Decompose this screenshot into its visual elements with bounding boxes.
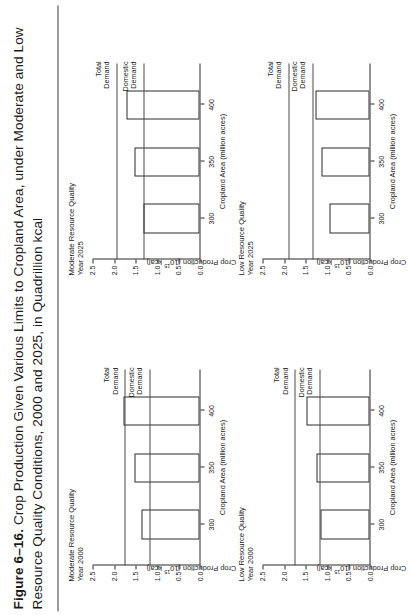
total-demand-label: TotalDemand [266,61,283,88]
x-axis-tick-label: 350 [377,148,384,174]
demand-label-line2: Demand [102,61,110,88]
y-axis-tick [92,565,93,569]
x-axis-tick [200,409,204,410]
chart-title: Moderate Resource QualityYear 2025 [66,183,85,275]
bar [123,396,199,426]
chart-title: Moderate Resource QualityYear 2000 [66,489,85,581]
x-axis-tick-label: 350 [207,454,214,480]
x-axis-tick-label: 400 [377,91,384,117]
x-axis-tick [370,466,374,467]
demand-label-line2: Demand [274,61,282,88]
x-axis-tick [200,217,204,218]
y-axis-tick [284,259,285,263]
x-axis-tick-label: 300 [207,205,214,231]
figure-number: Figure 6–16. [10,528,25,609]
total-demand-label: TotalDemand [272,367,289,394]
demand-label-line2: Demand [111,367,119,394]
total-demand-label: TotalDemand [102,367,119,394]
y-axis-tick-label: 2.5 [258,571,265,593]
x-axis-tick-label: 300 [207,511,214,537]
x-axis-title: Cropland Area (million acres) [387,63,396,259]
y-axis-tick [135,565,136,569]
domestic-demand-label: DomesticDemand [297,367,314,397]
chart-moderate-2025: Moderate Resource QualityYear 20250.00.5… [66,14,232,303]
y-axis-tick [284,565,285,569]
domestic-demand-label: DomesticDemand [121,61,138,91]
demand-label-line2: Demand [129,61,137,91]
x-axis-tick [370,103,374,104]
domestic-demand-line [149,369,150,565]
demand-label-line2: Demand [298,61,306,91]
figure-caption-line2: Resource Quality Conditions, 2000 and 20… [27,5,46,609]
bar [329,203,369,233]
chart-low-2000: Low Resource QualityYear 20000.00.51.01.… [236,320,402,609]
x-axis-tick [370,160,374,161]
x-axis-tick [200,160,204,161]
chart-title-line1: Moderate Resource Quality [66,183,75,275]
plot-area: 0.00.51.01.52.02.5300350400TotalDemandDo… [262,369,370,565]
y-axis-tick-label: 1.5 [301,265,308,287]
domestic-demand-line [312,63,313,259]
chart-title-line2: Year 2000 [245,507,254,581]
bar [316,453,369,483]
figure-caption: Figure 6–16. Crop Production Given Vario… [8,5,46,609]
y-axis-tick-label: 2.0 [280,571,287,593]
demand-label-line2: Demand [305,367,313,397]
y-axis-tick [114,565,115,569]
x-axis-tick-label: 400 [207,91,214,117]
chart-grid: Moderate Resource QualityYear 20000.00.5… [64,5,404,611]
x-axis-tick-label: 300 [377,511,384,537]
bar [306,396,369,426]
y-axis-tick [262,259,263,263]
x-axis-tick [200,103,204,104]
chart-low-2025: Low Resource QualityYear 20250.00.51.01.… [236,14,402,303]
y-axis-tick [262,565,263,569]
demand-label-line2: Demand [135,367,143,397]
plot-area: 0.00.51.01.52.02.5300350400TotalDemandDo… [92,63,200,259]
bar [315,90,369,120]
total-demand-line [288,63,289,259]
y-axis-tick [305,565,306,569]
bar [320,509,369,539]
demand-label-line2: Demand [281,367,289,394]
y-axis-tick-label: 2.5 [258,265,265,287]
figure-page: Figure 6–16. Crop Production Given Vario… [0,0,410,615]
bar [134,453,199,483]
plot-area: 0.00.51.01.52.02.5300350400TotalDemandDo… [92,369,200,565]
figure-caption-line1: Crop Production Given Various Limits to … [10,27,25,525]
chart-title-line2: Year 2025 [75,183,84,275]
domestic-demand-line [143,63,144,259]
chart-title-line1: Moderate Resource Quality [66,489,75,581]
total-demand-line [294,369,295,565]
y-axis-tick [114,259,115,263]
y-axis-tick-label: 2.0 [280,265,287,287]
x-axis-tick [370,523,374,524]
chart-title-line1: Low Resource Quality [236,201,245,275]
bar [321,147,369,177]
y-axis-tick-label: 1.5 [131,571,138,593]
x-axis-tick-label: 400 [207,397,214,423]
x-axis-tick-label: 400 [377,397,384,423]
domestic-demand-label: DomesticDemand [127,367,144,397]
x-axis-tick-label: 350 [207,148,214,174]
y-axis-tick-label: 1.5 [131,265,138,287]
x-axis-tick-label: 300 [377,205,384,231]
x-axis-tick [200,466,204,467]
y-axis-tick [135,259,136,263]
total-demand-label: TotalDemand [94,61,111,88]
domestic-demand-line [319,369,320,565]
chart-title-line2: Year 2000 [75,489,84,581]
y-axis-tick-label: 1.5 [301,571,308,593]
chart-moderate-2000: Moderate Resource QualityYear 20000.00.5… [66,320,232,609]
x-axis-title: Cropland Area (million acres) [217,369,226,565]
chart-title-line2: Year 2025 [245,201,254,275]
y-axis-tick-label: 2.5 [88,571,95,593]
total-demand-line [124,369,125,565]
bar [143,203,199,233]
chart-title: Low Resource QualityYear 2000 [236,507,255,581]
y-axis-tick [305,259,306,263]
y-axis-tick-label: 2.0 [110,265,117,287]
chart-title-line1: Low Resource Quality [236,507,245,581]
chart-title: Low Resource QualityYear 2025 [236,201,255,275]
x-axis-tick [370,409,374,410]
